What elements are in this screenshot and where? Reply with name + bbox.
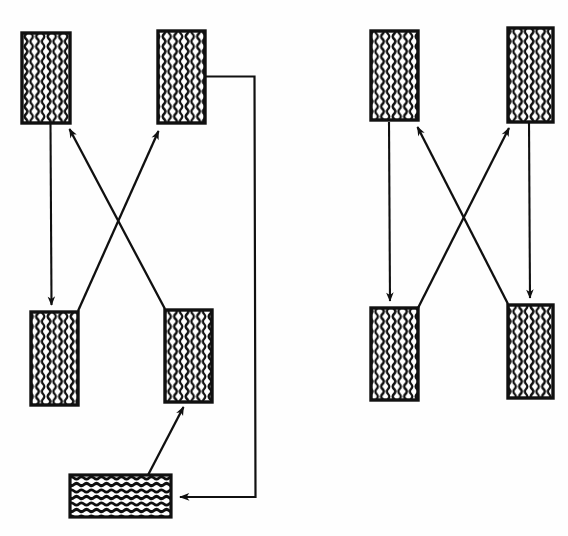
edge-bottom-block-to-lower-right bbox=[147, 407, 184, 477]
block-right-upper-right bbox=[508, 28, 553, 122]
block-right-lower-left bbox=[371, 308, 418, 400]
edge-upper-right-to-bottom-block-routed bbox=[180, 77, 256, 498]
block-left-lower-right bbox=[165, 310, 212, 402]
figure-root bbox=[0, 0, 568, 536]
figure-caption bbox=[0, 522, 568, 536]
block-right-upper-left bbox=[371, 31, 418, 120]
right-group bbox=[371, 28, 553, 400]
edge-right-upper-right-to-lower-right bbox=[529, 122, 530, 298]
edge-upper-left-to-lower-left bbox=[51, 124, 52, 305]
block-left-bottom-horizontal bbox=[70, 475, 171, 517]
block-left-upper-right bbox=[158, 31, 205, 123]
right-group-edges bbox=[389, 122, 530, 308]
edge-lower-right-to-upper-left bbox=[70, 129, 166, 309]
block-right-lower-right bbox=[508, 305, 553, 398]
block-left-lower-left bbox=[31, 312, 78, 405]
left-group bbox=[22, 31, 256, 517]
diagram-canvas bbox=[0, 0, 568, 536]
left-group-edges bbox=[51, 77, 256, 498]
edge-right-lower-right-to-upper-left bbox=[418, 127, 509, 304]
edge-right-upper-left-to-lower-left bbox=[389, 122, 390, 301]
block-left-upper-left bbox=[22, 33, 70, 123]
